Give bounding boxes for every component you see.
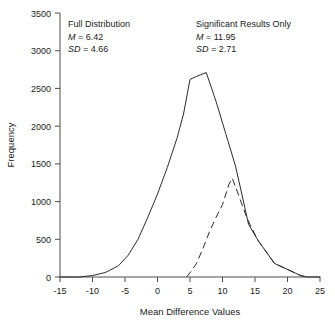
annotation-significant-results-only: Significant Results Only M = 11.95 SD = … <box>196 19 292 54</box>
annotation-full-distribution-sd-symbol: SD <box>68 44 81 54</box>
annotation-full-distribution-heading: Full Distribution <box>68 19 130 29</box>
x-tick-label-5: 5 <box>187 286 192 296</box>
y-tick-label-1500: 1500 <box>31 159 51 169</box>
x-tick-label--10: -10 <box>86 286 99 296</box>
y-axis-title: Frequency <box>5 122 16 167</box>
series-group <box>60 73 320 277</box>
x-tick-label-15: 15 <box>250 286 260 296</box>
series-line-significant-results-only <box>187 178 307 277</box>
annotation-significant-results-only-sd-symbol: SD <box>196 44 209 54</box>
annotation-full-distribution-mean-value: = 6.42 <box>76 32 104 42</box>
annotation-full-distribution-mean: M = 6.42 <box>68 32 103 42</box>
y-axis-tick-labels: 0 500 1000 1500 2000 2500 3000 3500 <box>31 9 51 283</box>
x-tick-label-20: 20 <box>282 286 292 296</box>
series-line-full-distribution <box>60 73 320 277</box>
y-tick-label-1000: 1000 <box>31 197 51 207</box>
x-tick-label--5: -5 <box>121 286 129 296</box>
chart-plot-area: 0 500 1000 1500 2000 2500 3000 3500 Freq… <box>0 0 335 331</box>
x-axis-title: Mean Difference Values <box>140 306 241 317</box>
annotation-significant-results-only-mean-value: = 11.95 <box>204 32 236 42</box>
y-tick-label-2000: 2000 <box>31 122 51 132</box>
y-tick-label-500: 500 <box>36 235 51 245</box>
x-tick-label-0: 0 <box>155 286 160 296</box>
annotation-full-distribution-sd: SD = 4.66 <box>68 44 108 54</box>
y-axis-ticks <box>55 13 60 277</box>
annotation-significant-results-only-sd-value: = 2.71 <box>209 44 237 54</box>
x-axis-ticks <box>60 277 320 282</box>
y-tick-label-3500: 3500 <box>31 9 51 19</box>
y-tick-label-2500: 2500 <box>31 84 51 94</box>
y-tick-label-0: 0 <box>46 273 51 283</box>
annotation-significant-results-only-heading: Significant Results Only <box>196 19 292 29</box>
x-axis-group: -15 -10 -5 0 5 10 15 20 25 Mean Differen… <box>53 277 325 317</box>
x-tick-label--15: -15 <box>53 286 66 296</box>
x-axis-tick-labels: -15 -10 -5 0 5 10 15 20 25 <box>53 286 325 296</box>
y-axis-group: 0 500 1000 1500 2000 2500 3000 3500 Freq… <box>5 9 60 283</box>
x-tick-label-25: 25 <box>315 286 325 296</box>
annotation-significant-results-only-mean: M = 11.95 <box>196 32 236 42</box>
annotation-full-distribution: Full Distribution M = 6.42 SD = 4.66 <box>68 19 130 54</box>
chart-figure: 0 500 1000 1500 2000 2500 3000 3500 Freq… <box>0 0 335 331</box>
annotation-significant-results-only-sd: SD = 2.71 <box>196 44 236 54</box>
x-tick-label-10: 10 <box>217 286 227 296</box>
annotation-full-distribution-sd-value: = 4.66 <box>81 44 109 54</box>
y-tick-label-3000: 3000 <box>31 46 51 56</box>
